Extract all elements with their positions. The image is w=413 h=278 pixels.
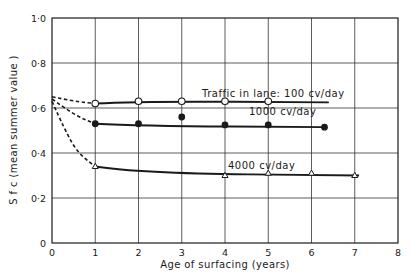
y-tick-label: 0·8	[31, 58, 46, 69]
filled-circle-marker	[92, 120, 99, 127]
extrapolated-dashed-line	[52, 97, 95, 104]
open-circle-marker	[178, 98, 185, 105]
x-tick-label: 6	[308, 247, 314, 258]
x-tick-label: 3	[179, 247, 185, 258]
y-axis-title: S f c (mean summer value )	[8, 55, 19, 205]
open-circle-marker	[135, 98, 142, 105]
sfc-vs-age-chart: 012345678 00·20·40·60·81·0 Traffic in la…	[0, 0, 413, 278]
filled-circle-marker	[178, 114, 185, 121]
y-tick-label: 0·4	[31, 148, 46, 159]
open-triangle-marker	[309, 170, 315, 175]
y-tick-label: 1·0	[31, 13, 46, 24]
y-tick-label: 0·6	[31, 103, 46, 114]
x-tick-label: 1	[92, 247, 98, 258]
annotation-100-cv-day: Traffic in lane: 100 cv/day	[201, 88, 345, 99]
filled-circle-marker	[135, 120, 142, 127]
x-tick-label: 0	[49, 247, 55, 258]
x-axis-title: Age of surfacing (years)	[160, 259, 290, 270]
x-tick-label: 8	[395, 247, 401, 258]
fitted-line	[95, 124, 324, 127]
extrapolated-dashed-line	[52, 101, 95, 166]
filled-circle-marker	[265, 121, 272, 128]
annotation-1000-cv-day: 1000 cv/day	[249, 106, 316, 117]
open-circle-marker	[92, 100, 99, 107]
y-tick-label: 0·2	[31, 193, 46, 204]
x-axis-ticks: 012345678	[49, 247, 401, 258]
filled-circle-marker	[321, 124, 328, 131]
fitted-line	[95, 102, 329, 104]
x-tick-label: 4	[222, 247, 228, 258]
filled-circle-marker	[222, 121, 229, 128]
y-tick-label: 0	[40, 238, 46, 249]
annotation-4000-cv-day: 4000 cv/day	[228, 160, 295, 171]
x-tick-label: 5	[265, 247, 271, 258]
y-axis-ticks: 00·20·40·60·81·0	[31, 13, 46, 249]
x-tick-label: 7	[352, 247, 358, 258]
grid-lines	[52, 18, 398, 243]
x-tick-label: 2	[135, 247, 141, 258]
